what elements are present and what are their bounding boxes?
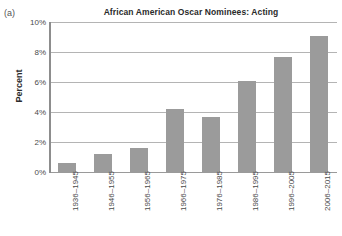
chart-title: African American Oscar Nominees: Acting	[46, 7, 336, 17]
x-tick-label: 1956–1965	[143, 171, 152, 233]
bar	[166, 109, 184, 172]
bar	[274, 57, 292, 173]
x-tick-label: 1946–1955	[107, 171, 116, 233]
gridline-4	[49, 112, 337, 113]
bar	[202, 117, 220, 173]
y-tick-label: 2%	[16, 138, 46, 147]
x-tick-label: 2006–2015	[323, 171, 332, 233]
x-tick-label: 1966–1975	[179, 171, 188, 233]
gridline-10	[49, 22, 337, 23]
x-tick-label: 1936–1945	[71, 171, 80, 233]
y-tick-label: 4%	[16, 108, 46, 117]
gridline-8	[49, 52, 337, 53]
panel-letter-label: (a)	[4, 8, 15, 18]
x-tick-label: 1996–2005	[287, 171, 296, 233]
y-tick-label: 8%	[16, 48, 46, 57]
x-tick-label: 1986–1995	[251, 171, 260, 233]
gridline-6	[49, 82, 337, 83]
x-axis-tick-labels: 1936–19451946–19551956–19651966–19751976…	[49, 173, 337, 235]
y-tick-label: 6%	[16, 78, 46, 87]
bar	[130, 148, 148, 172]
gridline-2	[49, 142, 337, 143]
bar	[238, 81, 256, 173]
y-axis-tick-labels: 0%2%4%6%8%10%	[14, 22, 46, 172]
figure-panel: (a) African American Oscar Nominees: Act…	[0, 0, 342, 236]
y-tick-label: 10%	[16, 18, 46, 27]
x-tick-label: 1976–1985	[215, 171, 224, 233]
y-tick-label: 0%	[16, 168, 46, 177]
plot-area	[49, 22, 337, 172]
bar	[94, 154, 112, 172]
bar	[310, 36, 328, 173]
y-axis-spine	[49, 22, 51, 173]
